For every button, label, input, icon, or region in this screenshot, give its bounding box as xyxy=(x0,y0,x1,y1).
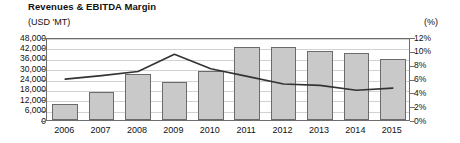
x-axis-tick-label: 2006 xyxy=(46,125,82,135)
left-axis-tick-label: 12,000 xyxy=(0,96,46,105)
x-axis-tick-label: 2008 xyxy=(119,125,155,135)
x-axis-tick-label: 2013 xyxy=(301,125,337,135)
x-axis-tick-label: 2012 xyxy=(264,125,300,135)
plot-area xyxy=(46,38,410,121)
line-series-ebitda-margin xyxy=(47,39,411,122)
left-axis-tick-label: 6,000 xyxy=(0,106,46,115)
left-axis-tick-label: 30,000 xyxy=(0,65,46,74)
left-axis-tick-label: 24,000 xyxy=(0,75,46,84)
x-axis-tick-label: 2010 xyxy=(192,125,228,135)
x-axis-tick-label: 2015 xyxy=(374,125,410,135)
right-axis-tick-label: 0% xyxy=(414,117,458,126)
x-axis-tick-label: 2009 xyxy=(155,125,191,135)
left-axis-tick-label: 48,000 xyxy=(0,34,46,43)
left-axis-unit-label: (USD 'MT) xyxy=(28,17,70,27)
chart-figure: Revenues & EBITDA Margin (USD 'MT) (%) 0… xyxy=(0,0,460,143)
x-axis-tick-label: 2011 xyxy=(228,125,264,135)
right-axis-tick-label: 8% xyxy=(414,61,458,70)
right-axis-tick-label: 4% xyxy=(414,89,458,98)
left-axis-tick xyxy=(41,121,46,122)
right-axis-tick-label: 12% xyxy=(414,34,458,43)
left-axis-tick-label: 0 xyxy=(0,117,46,126)
chart-title: Revenues & EBITDA Margin xyxy=(28,1,156,12)
right-axis-tick-label: 10% xyxy=(414,47,458,56)
x-axis-tick-labels: 2006200720082009201020112012201320142015 xyxy=(46,125,410,139)
x-axis-tick-label: 2007 xyxy=(82,125,118,135)
x-axis-tick-label: 2014 xyxy=(337,125,373,135)
right-axis-unit-label: (%) xyxy=(424,17,438,27)
left-axis-tick-label: 36,000 xyxy=(0,54,46,63)
right-axis-tick-label: 2% xyxy=(414,103,458,112)
left-axis-tick-label: 42,000 xyxy=(0,44,46,53)
left-axis-tick-label: 18,000 xyxy=(0,85,46,94)
right-axis-tick-label: 6% xyxy=(414,75,458,84)
